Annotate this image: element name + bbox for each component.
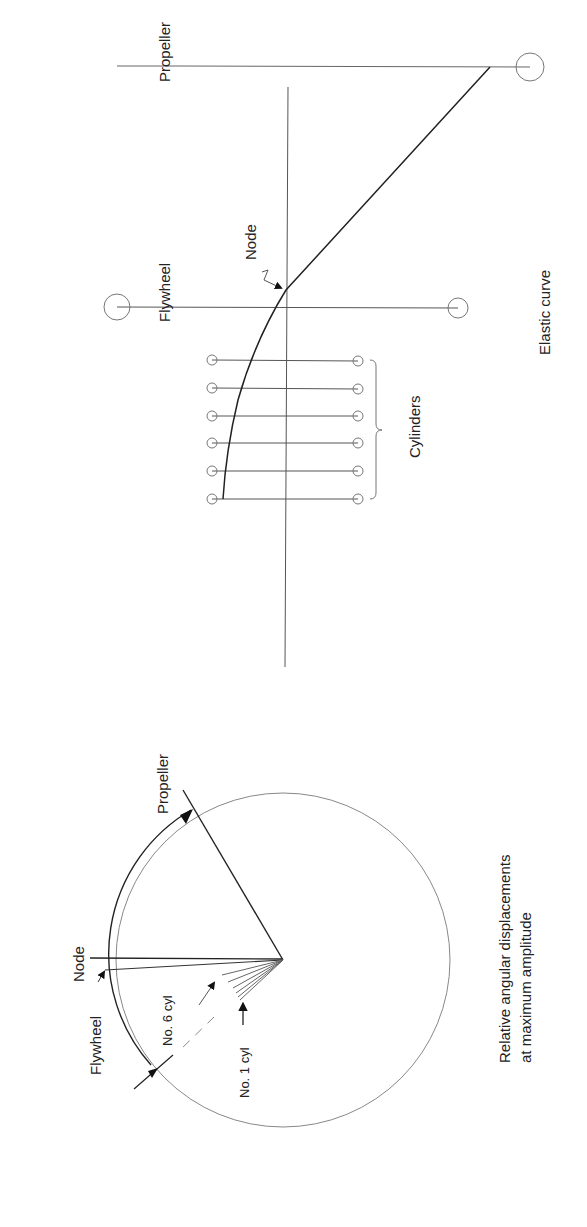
elastic-flywheel-label: Flywheel <box>156 263 173 322</box>
dashed-extension-line <box>180 1017 214 1050</box>
elastic-node-label: Node <box>242 224 259 260</box>
displacement-arc <box>109 810 191 1065</box>
flywheel-radial-line <box>105 960 283 970</box>
propeller-line <box>180 66 530 67</box>
angular-flywheel-label: Flywheel <box>87 1016 104 1075</box>
elastic-curve-title: Elastic curve <box>536 270 553 355</box>
no6-cyl-label: No. 6 cyl <box>160 995 175 1046</box>
node-radial-line <box>90 958 283 959</box>
cylinders-brace <box>370 360 382 499</box>
elastic-propeller-label: Propeller <box>156 22 173 82</box>
cylinders-label: Cylinders <box>406 395 423 458</box>
shaft-axis <box>285 87 288 667</box>
caption-line-1: Relative angular displacements <box>496 855 513 1063</box>
no6-arrow-icon <box>199 983 214 1005</box>
elastic-curve-diagram: Propeller Flywheel Node Cylinders Elasti… <box>104 22 553 667</box>
angular-propeller-label: Propeller <box>154 754 171 814</box>
cylinders-group <box>207 355 363 504</box>
flywheel-pointer-icon <box>98 972 104 982</box>
vibration-diagram-canvas: Propeller Flywheel Node Cylinders Elasti… <box>0 0 587 1227</box>
caption-line-2: at maximum amplitude <box>517 912 534 1063</box>
cylinder-radial-lines <box>222 960 283 1000</box>
node-arrow-icon <box>262 270 281 288</box>
angular-node-label: Node <box>70 946 87 982</box>
angular-displacement-diagram: Propeller Node Flywheel No. 6 cyl No. 1 … <box>70 754 534 1127</box>
elastic-curve-line <box>223 67 490 499</box>
propeller-radial-line <box>183 790 283 960</box>
no1-cyl-label: No. 1 cyl <box>237 1047 252 1098</box>
